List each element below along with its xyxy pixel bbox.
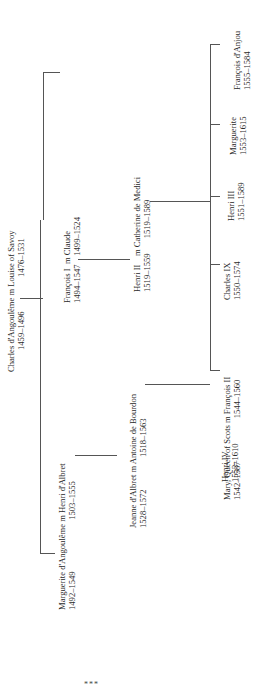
node-names: Charles IX — [222, 261, 232, 300]
node-names: Charles d'Angoulême m Louise of Savoy — [6, 230, 16, 372]
node-dates: 1553–1610 — [230, 443, 240, 482]
node-names: Henri III — [226, 182, 236, 221]
connector-marguerite — [75, 455, 117, 456]
node-names: Marguerite — [228, 116, 238, 155]
node-names: Henri II m Catherine de Medici — [132, 177, 142, 292]
node-names: Jeanne d'Albret m Antoine de Bourdon — [128, 394, 138, 528]
branch-henri3 — [210, 196, 220, 197]
branch-francois2 — [210, 370, 220, 371]
spine-gen1 — [43, 72, 44, 220]
node-dates: 1494–1547 1499–1524 — [72, 217, 82, 303]
node-dates: 1553–1615 — [238, 116, 248, 155]
footer-mark: *** — [84, 680, 99, 689]
node-jeanne-antoine: Jeanne d'Albret m Antoine de Bourdon 152… — [128, 394, 148, 528]
branch-charles9 — [210, 264, 220, 265]
node-names: François d'Anjou — [232, 31, 242, 90]
node-marguerite-henri-albret: Marguerite d'Angoulême m Henri d'Albret … — [57, 463, 77, 610]
node-henri4: Henri IV 1553–1610 — [220, 443, 240, 482]
node-dates: 1550–1574 — [232, 261, 242, 300]
branch-francois-anjou — [210, 44, 220, 45]
node-marguerite-valois: Marguerite 1553–1615 — [228, 116, 248, 155]
spine-henri2-children — [210, 44, 211, 370]
node-dates: 1459–1496 1476–1531 — [16, 230, 26, 372]
node-charles9: Charles IX 1550–1574 — [222, 261, 242, 300]
connector-jeanne — [145, 384, 210, 385]
node-francois-anjou: François d'Anjou 1555–1584 — [232, 31, 252, 90]
spine-gen1-lower — [40, 220, 41, 553]
connector-francois1 — [78, 259, 130, 260]
node-francois1-claude: François I m Claude 1494–1547 1499–1524 — [62, 217, 82, 303]
node-names: Marguerite d'Angoulême m Henri d'Albret — [57, 463, 67, 610]
branch-francois1 — [43, 72, 60, 73]
node-charles-louise: Charles d'Angoulême m Louise of Savoy 14… — [6, 230, 26, 372]
node-dates: 1492–1549 1503–1555 — [67, 463, 77, 610]
node-henri2-catherine: Henri II m Catherine de Medici 1519–1559… — [132, 177, 152, 292]
node-dates: 1551–1589 — [236, 182, 246, 221]
branch-marguerite — [40, 553, 55, 554]
node-dates: 1519–1559 1519–1589 — [142, 177, 152, 292]
node-dates: 1528–1572 1518–1563 — [138, 394, 148, 528]
node-henri3: Henri III 1551–1589 — [226, 182, 246, 221]
branch-marguerite-valois — [210, 124, 220, 125]
node-names: François I m Claude — [62, 217, 72, 303]
connector-henri2 — [150, 201, 210, 202]
node-names: Henri IV — [220, 443, 230, 482]
node-dates: 1555–1584 — [242, 31, 252, 90]
